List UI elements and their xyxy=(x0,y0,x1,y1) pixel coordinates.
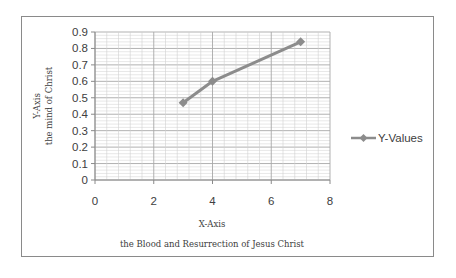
y-axis-title: Y-Axis the mind of Christ xyxy=(32,66,54,145)
x-tick-label: 4 xyxy=(209,195,216,207)
x-tick-label: 6 xyxy=(268,195,274,207)
y-tick-label: 0.7 xyxy=(72,59,88,71)
y-tick-label: 0.1 xyxy=(72,158,88,170)
y-axis-title-line2: the mind of Christ xyxy=(44,66,54,145)
y-tick-label: 0.4 xyxy=(72,108,89,120)
y-tick-label: 0.8 xyxy=(72,42,88,54)
y-tick-label: 0.5 xyxy=(72,92,88,104)
x-tick-label: 2 xyxy=(151,195,157,207)
legend-diamond-marker-icon xyxy=(360,134,368,142)
x-axis-title-line2: the Blood and Resurrection of Jesus Chri… xyxy=(120,239,305,249)
x-tick-label: 8 xyxy=(327,195,333,207)
line-chart: 00.10.20.30.40.50.60.70.80.9 02468 X-Axi… xyxy=(0,0,456,278)
y-tick-label: 0.3 xyxy=(72,125,88,137)
y-axis-title-line1: Y-Axis xyxy=(32,93,42,120)
x-axis-title-line1: X-Axis xyxy=(199,219,226,229)
series-y-values xyxy=(179,37,306,107)
grid-lines xyxy=(95,32,330,180)
x-tick-labels: 02468 xyxy=(92,195,333,207)
y-tick-labels: 00.10.20.30.40.50.60.70.80.9 xyxy=(72,26,89,186)
legend-label: Y-Values xyxy=(378,132,423,144)
x-tick-label: 0 xyxy=(92,195,98,207)
y-tick-label: 0 xyxy=(82,174,88,186)
y-tick-label: 0.2 xyxy=(72,141,88,153)
y-tick-label: 0.9 xyxy=(72,26,88,38)
y-tick-label: 0.6 xyxy=(72,75,88,87)
legend: Y-Values xyxy=(351,132,423,144)
